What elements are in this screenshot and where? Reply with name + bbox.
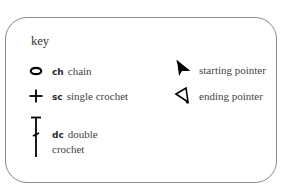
key-title: key <box>31 34 49 49</box>
single-crochet-label: single crochet <box>67 90 128 102</box>
outline-arrow-icon <box>174 86 190 104</box>
single-crochet-entry: scsingle crochet <box>52 89 128 104</box>
starting-pointer-label: starting pointer <box>199 64 266 76</box>
double-crochet-abbr: dc <box>52 130 64 140</box>
double-crochet-entry: dcdouble crochet <box>52 127 98 156</box>
starting-pointer-entry: starting pointer <box>199 63 266 77</box>
double-crochet-label-line1: double <box>68 128 98 140</box>
double-crochet-icon <box>30 116 42 158</box>
chain-abbr: ch <box>52 67 64 77</box>
single-crochet-abbr: sc <box>52 92 63 102</box>
ending-pointer-entry: ending pointer <box>199 89 263 103</box>
chain-entry: chchain <box>52 64 92 79</box>
filled-arrow-icon <box>175 59 191 77</box>
double-crochet-label-line2: crochet <box>52 142 98 156</box>
plus-icon <box>29 89 43 103</box>
oval-icon <box>29 66 43 76</box>
chain-label: chain <box>68 65 92 77</box>
ending-pointer-label: ending pointer <box>199 90 263 102</box>
